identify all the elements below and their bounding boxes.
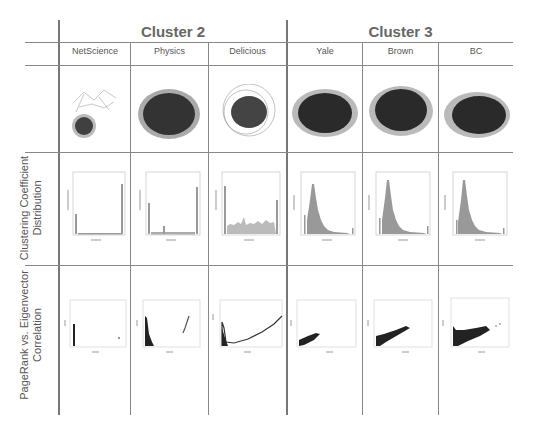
column-header: Physics <box>131 46 208 56</box>
network-graph-netscience <box>64 82 126 140</box>
row-divider <box>25 152 513 153</box>
scatter-bc <box>440 296 512 356</box>
column-header: Brown <box>363 46 438 56</box>
histogram-delicious <box>214 170 282 242</box>
histogram-yale <box>292 170 358 242</box>
column-header: NetScience <box>60 46 130 56</box>
col-divider <box>362 42 363 415</box>
header-divider <box>25 42 513 43</box>
network-graph-brown <box>367 84 435 138</box>
scatter-delicious <box>212 298 284 356</box>
cluster-title: Cluster 2 <box>60 23 286 40</box>
left-divider <box>58 20 60 415</box>
network-graph-physics <box>134 86 204 142</box>
row-label-pagerank: PageRank vs. Eigenvector Correlation <box>18 260 48 410</box>
col-divider <box>208 42 209 415</box>
col-divider <box>130 42 131 415</box>
row-label-line: PageRank vs. Eigenvector <box>18 260 31 410</box>
col-divider <box>438 42 439 415</box>
scatter-yale <box>290 298 358 356</box>
scatter-physics <box>136 298 202 356</box>
histogram-netscience <box>66 170 126 242</box>
column-header: Delicious <box>209 46 286 56</box>
histogram-bc <box>442 170 510 242</box>
column-header: Yale <box>288 46 362 56</box>
cluster-divider <box>286 20 288 415</box>
row-label-line: Correlation <box>31 260 44 410</box>
network-graph-delicious <box>214 84 284 140</box>
histogram-physics <box>138 170 202 242</box>
scatter-netscience <box>64 298 128 356</box>
column-header: BC <box>439 46 513 56</box>
header-divider <box>25 65 513 66</box>
scatter-brown <box>366 298 434 356</box>
cluster-title: Cluster 3 <box>288 23 513 40</box>
row-divider <box>25 265 513 266</box>
network-graph-bc <box>442 88 512 140</box>
histogram-brown <box>366 170 434 242</box>
network-graph-yale <box>290 86 360 138</box>
